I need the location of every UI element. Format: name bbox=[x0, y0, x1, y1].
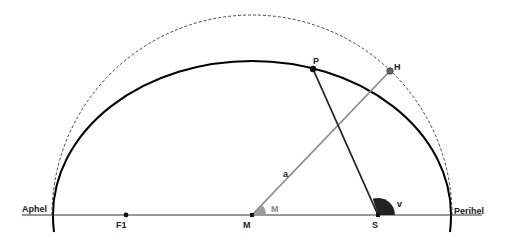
focus1-label: F1 bbox=[116, 220, 127, 230]
mean-anomaly-label: M bbox=[271, 204, 279, 214]
auxiliary-circle bbox=[52, 15, 452, 215]
planet-point bbox=[310, 66, 316, 72]
auxiliary-point bbox=[387, 68, 393, 74]
aphel-label: Aphel bbox=[22, 204, 47, 214]
perihel-label: Perihel bbox=[454, 206, 484, 216]
center-label: M bbox=[243, 220, 251, 230]
planet-label: P bbox=[313, 56, 319, 66]
sun-label: S bbox=[372, 220, 378, 230]
auxiliary-point-label: H bbox=[394, 62, 401, 72]
sun-point bbox=[376, 213, 380, 217]
center-point bbox=[250, 213, 254, 217]
focus1-point bbox=[124, 213, 129, 218]
orbit-diagram: Aphel Perihel F1 M S P H a M v bbox=[0, 0, 505, 248]
true-anomaly-label: v bbox=[397, 199, 402, 209]
